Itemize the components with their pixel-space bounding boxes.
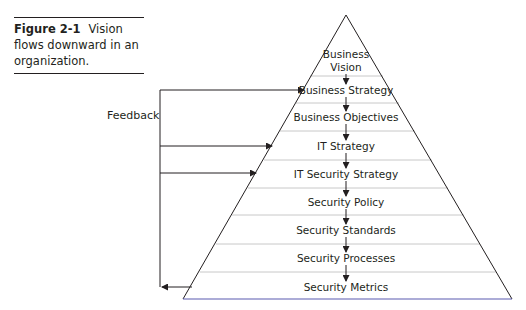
- layer-security-policy: Security Policy: [308, 196, 385, 208]
- layer-security-processes: Security Processes: [297, 252, 395, 264]
- layer-security-standards: Security Standards: [296, 224, 396, 236]
- layer-it-strategy: IT Strategy: [317, 140, 375, 152]
- layer-business-vision-line1: Business: [323, 48, 369, 60]
- layer-it-security-strategy: IT Security Strategy: [294, 168, 398, 180]
- pyramid-diagram: Business Vision Business Strategy Busine…: [0, 0, 526, 310]
- layer-security-metrics: Security Metrics: [304, 281, 389, 293]
- layer-business-vision-line2: Vision: [330, 61, 361, 73]
- layer-business-strategy: Business Strategy: [299, 84, 394, 96]
- layer-business-objectives: Business Objectives: [294, 111, 399, 123]
